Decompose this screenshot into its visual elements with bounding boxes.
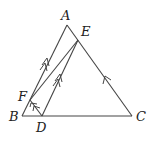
single-arrow-mark-CA xyxy=(103,76,111,84)
double-arrow-mark-DE xyxy=(53,74,62,87)
label-D: D xyxy=(35,120,47,135)
label-B: B xyxy=(8,109,19,124)
segment-FD xyxy=(30,100,42,116)
label-C: C xyxy=(136,109,146,124)
label-A: A xyxy=(60,8,70,23)
segment-AB xyxy=(22,25,67,116)
segment-CA xyxy=(67,25,132,116)
label-F: F xyxy=(17,89,28,104)
triangle-diagram: A E F B D C xyxy=(0,0,155,143)
label-E: E xyxy=(80,24,91,39)
